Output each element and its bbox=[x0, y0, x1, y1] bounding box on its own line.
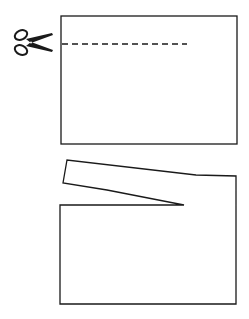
cut-sheet-with-lifted-strip bbox=[60, 160, 236, 304]
paper-cutting-diagram bbox=[0, 0, 249, 319]
scissors-icon bbox=[13, 28, 53, 57]
step-one-sheet bbox=[13, 16, 237, 144]
step-two-sheet bbox=[60, 160, 236, 304]
uncut-sheet bbox=[61, 16, 237, 144]
